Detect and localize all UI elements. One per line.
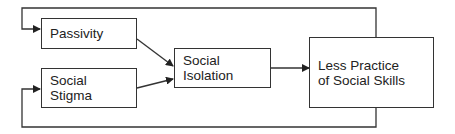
node-social-isolation: Social Isolation (174, 48, 271, 88)
node-social-stigma: Social Stigma (41, 68, 137, 108)
node-label: Social Isolation (183, 53, 233, 83)
node-label: Passivity (50, 26, 103, 41)
node-less-practice: Less Practice of Social Skills (309, 37, 434, 108)
node-label: Social Stigma (50, 73, 92, 103)
edge-stigma-to-isolation (137, 79, 173, 88)
edge-passivity-to-isolation (137, 39, 173, 66)
node-passivity: Passivity (41, 18, 137, 49)
node-label: Less Practice of Social Skills (318, 58, 405, 88)
